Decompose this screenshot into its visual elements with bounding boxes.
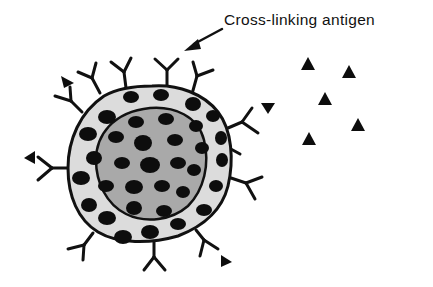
antigen-triangle-icon xyxy=(318,92,332,105)
antigen-triangle-icon xyxy=(302,132,316,145)
antigen-triangle-icon xyxy=(24,151,35,164)
arrow-icon xyxy=(184,29,222,51)
antibody-icon xyxy=(155,59,178,86)
antibody-icon xyxy=(231,177,262,199)
antibody-icon xyxy=(38,157,68,180)
antigen-triangle-icon xyxy=(342,65,356,78)
antibody-icon xyxy=(192,62,213,94)
antigen-triangle-icon xyxy=(351,118,365,131)
antigen-triangle-icon xyxy=(261,103,275,114)
antibody-icon xyxy=(228,108,258,133)
antigen-triangle-icon xyxy=(61,76,74,88)
antibody-icon xyxy=(68,233,93,260)
antibody-icon xyxy=(111,58,131,88)
diagram-canvas: Cross-linking antigen xyxy=(0,0,433,287)
antigen-triangle-icon xyxy=(221,255,232,267)
antigen-triangle-icon xyxy=(301,57,315,70)
cell-diagram xyxy=(0,0,433,287)
antibody-icon xyxy=(55,87,82,112)
antibody-icon xyxy=(78,63,100,93)
free-antigens xyxy=(301,57,365,145)
cross-linking-antigen-label: Cross-linking antigen xyxy=(224,11,375,29)
antibody-icon xyxy=(196,230,218,256)
antibody-icon xyxy=(144,240,165,270)
